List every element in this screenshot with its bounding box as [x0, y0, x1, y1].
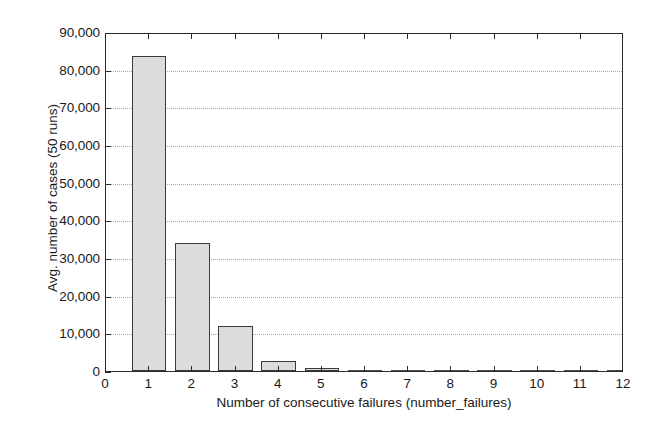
y-tick-mark — [105, 108, 111, 109]
x-tick-label: 4 — [256, 376, 300, 391]
x-tick-label: 3 — [213, 376, 257, 391]
x-tick-mark-bottom — [235, 366, 236, 372]
y-tick-mark — [105, 372, 111, 373]
x-tick-mark-top — [407, 33, 408, 39]
x-tick-mark-top — [537, 33, 538, 39]
x-tick-mark-bottom — [537, 366, 538, 372]
y-tick-label: 50,000 — [0, 177, 100, 191]
bar-11 — [564, 370, 599, 371]
y-tick-mark — [105, 71, 111, 72]
x-tick-label: 10 — [515, 376, 559, 391]
bar-4 — [261, 361, 296, 371]
x-tick-mark-top — [364, 33, 365, 39]
y-tick-label-wrap: 90,000 — [0, 26, 100, 40]
bar-2 — [175, 243, 210, 371]
bar-10 — [520, 370, 555, 371]
y-tick-mark — [105, 221, 111, 222]
y-tick-label: 80,000 — [0, 64, 100, 78]
bar-3 — [218, 326, 253, 371]
y-tick-label: 70,000 — [0, 101, 100, 115]
y-tick-label: 10,000 — [0, 327, 100, 341]
x-tick-mark-bottom — [191, 366, 192, 372]
chart-figure: Avg. number of cases (50 runs) Number of… — [0, 0, 657, 432]
x-tick-mark-bottom — [450, 366, 451, 372]
x-tick-label: 9 — [472, 376, 516, 391]
gridline — [106, 146, 622, 147]
x-tick-label: 5 — [299, 376, 343, 391]
x-tick-mark-top — [450, 33, 451, 39]
y-tick-label-wrap: 40,000 — [0, 214, 100, 228]
x-tick-label: 7 — [385, 376, 429, 391]
bar-1 — [132, 56, 167, 371]
gridline — [106, 71, 622, 72]
x-tick-mark-bottom — [321, 366, 322, 372]
bar-12 — [607, 370, 623, 371]
x-tick-label: 8 — [428, 376, 472, 391]
x-tick-label: 2 — [169, 376, 213, 391]
x-tick-mark-top — [148, 33, 149, 39]
x-tick-mark-top — [494, 33, 495, 39]
x-tick-mark-top — [235, 33, 236, 39]
x-tick-mark-bottom — [494, 366, 495, 372]
y-tick-label: 90,000 — [0, 26, 100, 40]
y-tick-label-wrap: 20,000 — [0, 290, 100, 304]
y-tick-mark — [105, 297, 111, 298]
y-tick-label: 40,000 — [0, 214, 100, 228]
x-tick-label: 12 — [601, 376, 645, 391]
gridline — [106, 221, 622, 222]
x-tick-mark-top — [321, 33, 322, 39]
x-tick-mark-bottom — [407, 366, 408, 372]
x-tick-label: 6 — [342, 376, 386, 391]
gridline — [106, 108, 622, 109]
y-tick-mark — [105, 33, 111, 34]
y-tick-label: 20,000 — [0, 290, 100, 304]
x-tick-mark-bottom — [364, 366, 365, 372]
y-tick-label-wrap: 80,000 — [0, 64, 100, 78]
x-tick-label: 11 — [558, 376, 602, 391]
y-tick-label: 60,000 — [0, 139, 100, 153]
y-tick-mark — [105, 334, 111, 335]
y-tick-label-wrap: 10,000 — [0, 327, 100, 341]
x-axis-title: Number of consecutive failures (number_f… — [105, 395, 623, 411]
x-tick-mark-top — [580, 33, 581, 39]
bar-5 — [305, 368, 340, 371]
x-tick-mark-top — [191, 33, 192, 39]
bar-8 — [434, 370, 469, 371]
y-tick-mark — [105, 146, 111, 147]
y-tick-mark — [105, 259, 111, 260]
x-tick-mark-top — [278, 33, 279, 39]
y-tick-mark — [105, 184, 111, 185]
x-tick-label: 0 — [83, 376, 127, 391]
x-tick-mark-bottom — [580, 366, 581, 372]
gridline — [106, 184, 622, 185]
x-tick-mark-bottom — [278, 366, 279, 372]
y-tick-label-wrap: 60,000 — [0, 139, 100, 153]
x-tick-label: 1 — [126, 376, 170, 391]
y-tick-label-wrap: 50,000 — [0, 177, 100, 191]
bar-7 — [391, 370, 426, 371]
y-tick-label-wrap: 30,000 — [0, 252, 100, 266]
x-tick-mark-bottom — [148, 366, 149, 372]
y-tick-label: 30,000 — [0, 252, 100, 266]
y-tick-label-wrap: 70,000 — [0, 101, 100, 115]
plot-area — [105, 33, 623, 372]
